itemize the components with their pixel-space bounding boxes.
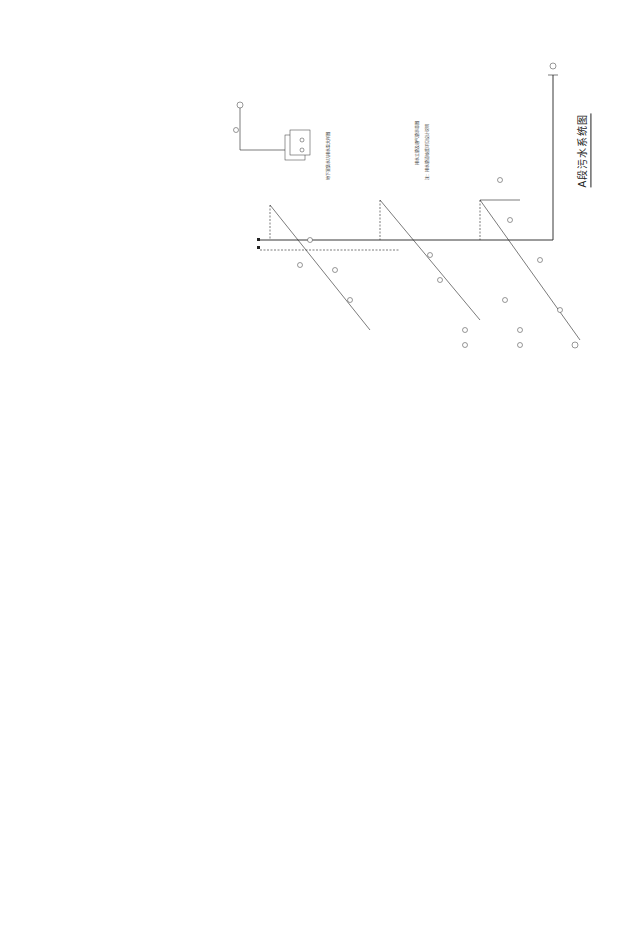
legend-note-2: 注：排水管道坡度详见设计说明: [424, 124, 430, 180]
drawing-title-wrap: A段污水系统图: [570, 95, 596, 205]
drawing-title: A段污水系统图: [575, 113, 592, 187]
legend-note-1: 排水立管及通气管示意图: [414, 121, 420, 165]
detail-caption: 地下室集水坑排水泵大样图: [325, 132, 331, 180]
system-diagram-canvas: [0, 0, 644, 932]
drawing-sheet: 地下室集水坑排水泵大样图 排水立管及通气管示意图 注：排水管道坡度详见设计说明: [0, 0, 644, 932]
upper-right-main-system: [257, 63, 580, 348]
pump-pit-detail: [234, 102, 311, 160]
